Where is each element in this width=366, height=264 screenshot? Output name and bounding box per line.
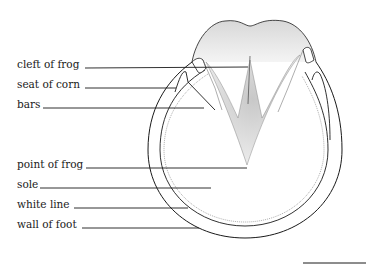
label-sole: sole [17, 178, 38, 190]
frog [206, 55, 300, 165]
label-cleft-of-frog: cleft of frog [17, 58, 79, 70]
label-white-line: white line [17, 198, 70, 210]
label-point-of-frog: point of frog [17, 158, 83, 170]
left-seat-of-corn [175, 72, 215, 110]
label-bars: bars [17, 98, 40, 110]
hoof-diagram: cleft of frog seat of corn bars point of… [0, 0, 366, 264]
label-wall-of-foot: wall of foot [17, 218, 77, 230]
label-seat-of-corn: seat of corn [17, 78, 80, 90]
leader-cleft-of-frog [85, 67, 248, 68]
heel-bulbs-outline [192, 20, 316, 62]
